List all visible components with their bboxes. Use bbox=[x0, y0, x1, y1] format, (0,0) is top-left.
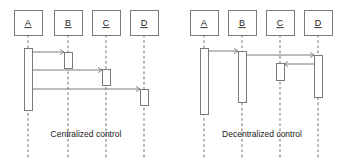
figure-canvas: ABCDCentralized control ABCDDecentralize… bbox=[0, 0, 344, 166]
participant-label-b: B bbox=[239, 18, 245, 28]
diagram-caption: Centralized control bbox=[51, 129, 122, 139]
participant-label-c: C bbox=[103, 18, 110, 28]
participant-label-d: D bbox=[315, 18, 322, 28]
centralized-svg: ABCDCentralized control bbox=[0, 0, 172, 166]
activation-bar-c[interactable] bbox=[103, 70, 111, 86]
activation-bar-d[interactable] bbox=[141, 90, 149, 106]
decentralized-svg: ABCDDecentralized control bbox=[172, 0, 344, 166]
activation-bar-c[interactable] bbox=[277, 64, 285, 81]
participant-label-a: A bbox=[25, 18, 31, 28]
activation-bar-a[interactable] bbox=[25, 49, 33, 111]
activation-bar-b[interactable] bbox=[239, 52, 247, 103]
participant-label-d: D bbox=[141, 18, 148, 28]
participant-label-a: A bbox=[201, 18, 207, 28]
diagram-caption: Decentralized control bbox=[222, 129, 302, 139]
activation-bar-b[interactable] bbox=[65, 53, 73, 69]
sequence-diagram-centralized: ABCDCentralized control bbox=[0, 0, 172, 166]
activation-bar-d[interactable] bbox=[315, 56, 323, 98]
activation-bar-a[interactable] bbox=[201, 49, 209, 115]
participant-label-c: C bbox=[277, 18, 284, 28]
sequence-diagram-decentralized: ABCDDecentralized control bbox=[172, 0, 344, 166]
participant-label-b: B bbox=[65, 18, 71, 28]
